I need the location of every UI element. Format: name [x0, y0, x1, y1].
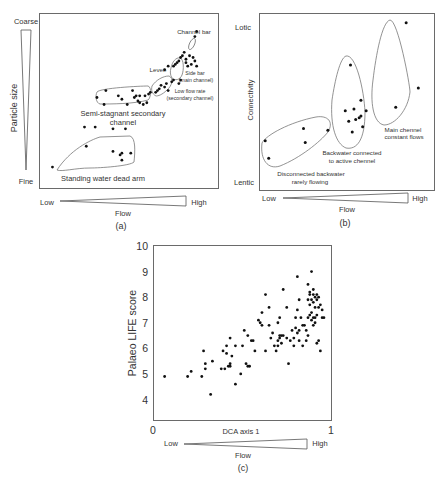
panel-a-flow-high-label: High	[191, 198, 206, 207]
data-point	[267, 157, 270, 160]
data-point	[314, 316, 317, 319]
data-point	[264, 139, 267, 142]
y-tick-label: 8	[142, 291, 148, 303]
data-point	[190, 63, 193, 66]
data-point	[234, 344, 237, 347]
data-point	[417, 86, 420, 89]
data-point	[285, 306, 288, 309]
data-point	[129, 152, 132, 155]
data-point	[200, 375, 203, 378]
data-point	[277, 321, 280, 324]
data-point	[185, 58, 188, 61]
data-point	[405, 21, 408, 24]
data-point	[321, 309, 324, 312]
data-point	[280, 342, 283, 345]
panel-a-y-title: Particle size	[9, 84, 19, 133]
data-point	[277, 339, 280, 342]
data-point	[195, 30, 198, 33]
data-point	[51, 166, 54, 169]
data-point	[220, 367, 223, 370]
data-point	[277, 344, 280, 347]
data-point	[359, 115, 362, 118]
data-point	[245, 362, 248, 365]
data-point	[177, 82, 180, 85]
data-point	[131, 89, 134, 92]
data-point	[298, 329, 301, 332]
data-point	[344, 109, 347, 112]
data-point	[304, 141, 307, 144]
data-point	[317, 306, 320, 309]
flow-wedge-b-icon	[283, 193, 408, 203]
y-tick-label: 7	[142, 317, 148, 329]
hull-main-channel	[372, 20, 410, 125]
data-point	[229, 365, 232, 368]
data-point	[253, 350, 256, 353]
data-point	[305, 329, 308, 332]
data-point	[193, 60, 196, 63]
panel-a-y-bottom-label: Fine	[19, 177, 34, 186]
hull-channel-bar	[187, 38, 197, 51]
data-point	[177, 60, 180, 63]
data-point	[149, 91, 152, 94]
data-point	[359, 99, 362, 102]
data-point	[179, 79, 182, 82]
hull-disconnected	[262, 117, 331, 167]
data-point	[294, 326, 297, 329]
data-point	[326, 129, 329, 132]
flow-wedge-c-icon	[184, 439, 307, 449]
data-point	[248, 365, 251, 368]
label-main-channel-1: Main chennel	[385, 126, 422, 133]
label-low-flow-1: Low flow rate	[175, 88, 206, 94]
data-point	[351, 130, 354, 133]
data-point	[308, 314, 311, 317]
data-point	[138, 101, 141, 104]
data-point	[264, 350, 267, 353]
panel-c-x-max: 1	[328, 424, 334, 436]
panel-b: Lotic Lentic Connectivity Main chennel c…	[234, 14, 435, 229]
panel-c-frame	[154, 246, 332, 421]
data-point	[352, 108, 355, 111]
data-point	[347, 120, 350, 123]
data-point	[310, 270, 313, 273]
data-point	[310, 311, 313, 314]
hull-backwater-connected	[332, 56, 365, 148]
data-point	[193, 35, 196, 38]
data-point	[96, 96, 99, 99]
data-point	[285, 337, 288, 340]
data-point	[229, 337, 232, 340]
data-point	[145, 101, 148, 104]
data-point	[165, 82, 168, 85]
data-point	[296, 309, 299, 312]
data-point	[243, 329, 246, 332]
y-tick-label: 5	[142, 368, 148, 380]
data-point	[312, 288, 315, 291]
data-point	[120, 98, 123, 101]
data-point	[160, 84, 163, 87]
data-point	[314, 306, 317, 309]
data-point	[126, 103, 129, 106]
label-standing-water: Standing water dead arm	[61, 174, 145, 183]
panel-a-flow-low-label: Low	[40, 198, 54, 207]
data-point	[202, 350, 205, 353]
data-point	[296, 275, 299, 278]
data-point	[120, 152, 123, 155]
data-point	[312, 324, 315, 327]
data-point	[223, 367, 226, 370]
data-point	[188, 54, 191, 57]
panel-c-x-min: 0	[150, 424, 156, 436]
panel-b-y-title: Connectivity	[246, 79, 255, 120]
panel-c-caption: (c)	[238, 463, 249, 473]
data-point	[310, 319, 313, 322]
data-point	[117, 94, 120, 97]
data-point	[246, 334, 249, 337]
data-point	[314, 296, 317, 299]
label-disconnected-1: Disconnected backwater	[277, 170, 344, 177]
panel-b-x-title: Flow	[339, 205, 355, 214]
y-tick-label: 6	[142, 342, 148, 354]
data-point	[308, 303, 311, 306]
data-point	[315, 314, 318, 317]
data-point	[163, 375, 166, 378]
data-point	[354, 118, 357, 121]
data-point	[103, 103, 106, 106]
data-point	[183, 51, 186, 54]
